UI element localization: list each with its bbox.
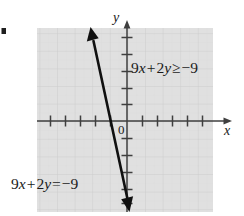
x-axis-label: x [224, 124, 230, 138]
equation-rhs: −9 [62, 175, 79, 192]
equation-coef-x: 9 [11, 175, 19, 192]
inequality-coef-x: 9 [131, 59, 139, 76]
margin-bullet-icon [2, 28, 7, 34]
equation-relation: = [51, 175, 62, 192]
equation-var-x: x [19, 175, 26, 192]
equation-coef-y: 2 [36, 175, 44, 192]
figure-canvas: 9x+2y≥−9 9x+2y=−9 y x 0 [0, 0, 244, 216]
inequality-relation: ≥ [171, 59, 182, 76]
inequality-label: 9x+2y≥−9 [131, 60, 198, 76]
equation-var-y: y [44, 175, 51, 192]
inequality-rhs: −9 [182, 59, 199, 76]
inequality-var-x: x [139, 59, 146, 76]
equation-plus: + [26, 175, 37, 192]
inequality-plus: + [146, 59, 157, 76]
y-axis-label: y [113, 11, 119, 25]
origin-label: 0 [118, 123, 125, 136]
inequality-coef-y: 2 [156, 59, 164, 76]
inequality-var-y: y [164, 59, 171, 76]
equation-label: 9x+2y=−9 [11, 176, 78, 192]
